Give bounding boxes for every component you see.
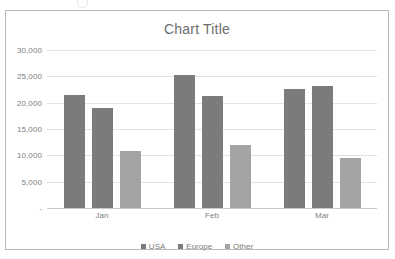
x-axis: JanFebMar [47, 211, 377, 220]
legend-swatch-icon [225, 244, 230, 249]
bar-mar-usa[interactable] [284, 89, 305, 208]
x-axis-label-jan: Jan [47, 211, 157, 220]
bar-jan-usa[interactable] [64, 95, 85, 208]
legend-item-usa[interactable]: USA [141, 242, 165, 251]
y-axis-tick-label: 20,000 [17, 98, 42, 107]
plot-area [47, 50, 377, 208]
x-axis-label-feb: Feb [157, 211, 267, 220]
bar-feb-other[interactable] [230, 145, 251, 208]
chart-legend[interactable]: USAEuropeOther [6, 242, 388, 251]
bar-mar-other[interactable] [340, 158, 361, 208]
bars-layer [47, 50, 377, 208]
chart-title: Chart Title [6, 21, 388, 37]
chart-container[interactable]: Chart Title 30,00025,00020,00015,00010,0… [5, 10, 389, 250]
bar-jan-other[interactable] [120, 151, 141, 208]
y-axis-tick-label: 5,000 [21, 177, 42, 186]
y-axis-tick-label: - [39, 204, 42, 213]
scan-artifact [77, 0, 88, 8]
y-axis-tick-label: 15,000 [17, 125, 42, 134]
legend-swatch-icon [178, 244, 183, 249]
bar-group-jan [47, 50, 157, 208]
bar-group-feb [157, 50, 267, 208]
legend-item-other[interactable]: Other [225, 242, 253, 251]
bar-feb-usa[interactable] [174, 75, 195, 208]
y-axis: 30,00025,00020,00015,00010,0005,000- [6, 50, 42, 208]
x-axis-label-mar: Mar [267, 211, 377, 220]
y-axis-tick-label: 25,000 [17, 72, 42, 81]
y-axis-tick-label: 10,000 [17, 151, 42, 160]
bar-group-mar [267, 50, 377, 208]
bar-jan-europe[interactable] [92, 108, 113, 208]
legend-label: USA [149, 242, 165, 251]
bar-feb-europe[interactable] [202, 96, 223, 208]
y-axis-tick-label: 30,000 [17, 46, 42, 55]
legend-label: Europe [186, 242, 212, 251]
bar-mar-europe[interactable] [312, 86, 333, 208]
legend-label: Other [233, 242, 253, 251]
legend-swatch-icon [141, 244, 146, 249]
gridline [47, 208, 377, 209]
legend-item-europe[interactable]: Europe [178, 242, 212, 251]
